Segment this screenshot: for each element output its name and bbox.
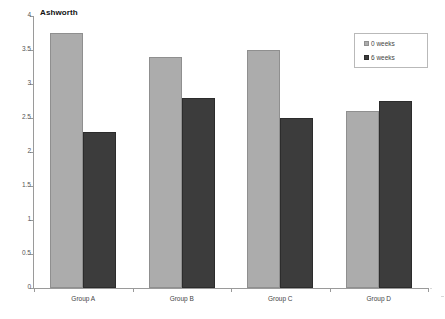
x-axis-tick-mark xyxy=(428,288,429,292)
x-axis-tick-mark xyxy=(133,288,134,292)
bar-group-a-0-weeks xyxy=(50,33,83,288)
y-axis-tick-label: 2 xyxy=(27,147,31,154)
y-axis-tick-label: 3.5 xyxy=(22,45,31,52)
x-axis-category-label: Group B xyxy=(170,295,194,302)
page-edge-mark-axis-end xyxy=(430,288,432,289)
y-axis-tick-label: 4 xyxy=(27,11,31,18)
legend-label-6-weeks: 6 weeks xyxy=(371,54,395,61)
bar-group-b-0-weeks xyxy=(149,57,182,288)
x-axis-category-label: Group D xyxy=(366,295,391,302)
legend-item-0-weeks: 0 weeks xyxy=(364,40,395,47)
x-axis-tick-mark xyxy=(330,288,331,292)
x-axis-category-label: Group A xyxy=(71,295,95,302)
legend-item-6-weeks: 6 weeks xyxy=(364,54,395,61)
bar-group-c-0-weeks xyxy=(247,50,280,288)
x-axis-category-label: Group C xyxy=(268,295,293,302)
x-axis-tick-mark xyxy=(231,288,232,292)
chart-legend: 0 weeks 6 weeks xyxy=(354,33,428,68)
bar-group-d-0-weeks xyxy=(346,111,379,288)
y-axis-tick-label: 3 xyxy=(27,79,31,86)
y-axis-tick-label: 1 xyxy=(27,215,31,222)
legend-swatch-icon-0-weeks xyxy=(364,41,369,46)
x-axis-tick-mark xyxy=(34,288,35,292)
y-axis-tick-label: 2.5 xyxy=(22,113,31,120)
legend-label-0-weeks: 0 weeks xyxy=(371,40,395,47)
y-axis-tick-label: 0.5 xyxy=(22,249,31,256)
y-axis-tick-label: 1.5 xyxy=(22,181,31,188)
bar-group-d-6-weeks xyxy=(379,101,412,288)
y-axis-tick-label: 0 xyxy=(27,283,31,290)
bar-group-c-6-weeks xyxy=(280,118,313,288)
ashworth-bar-chart: Ashworth 00.511.522.533.54 Group AGroup … xyxy=(0,0,445,319)
page-edge-mark-right xyxy=(441,296,444,297)
bar-group-a-6-weeks xyxy=(83,132,116,288)
bar-group-b-6-weeks xyxy=(182,98,215,288)
legend-swatch-icon-6-weeks xyxy=(364,55,369,60)
